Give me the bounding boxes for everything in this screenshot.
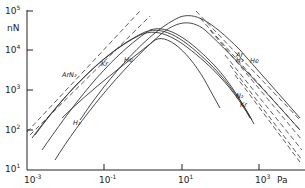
x-unit-label: Pa	[277, 175, 288, 185]
y-tick-labels: 105 nN 104 103 102 101	[5, 4, 20, 174]
x-tick-labels: 10-3 10-1 101 103 Pa	[24, 173, 288, 185]
y-tick-label: 101	[5, 162, 20, 174]
label-kr-right: Kr	[240, 101, 248, 109]
force-vs-pressure-chart: 105 nN 104 103 102 101 10-3 10-1 101 103…	[0, 0, 305, 188]
curves	[32, 16, 300, 160]
asymptote-line	[225, 55, 302, 150]
curve-labels: ArN₂ Kr He H₂ Ar N₂ Kr H₂ He	[61, 51, 259, 127]
label-ar-n2: ArN₂	[61, 71, 77, 79]
curve-he-upper	[80, 16, 300, 120]
label-n2-right: N₂	[236, 92, 244, 100]
y-tick-label: 104	[5, 43, 20, 55]
x-tick-label: 103	[255, 173, 270, 185]
curve-n2	[35, 30, 252, 135]
label-he-left: He	[124, 56, 133, 64]
high-pressure-asymptotes	[196, 11, 302, 162]
y-unit-label: nN	[7, 23, 19, 33]
x-tick-label: 101	[178, 173, 193, 185]
x-tick-label: 10-1	[99, 173, 117, 185]
x-tick-label: 10-3	[24, 173, 42, 185]
curve-ar	[32, 32, 250, 138]
y-tick-label: 105	[5, 4, 20, 16]
label-kr-left: Kr	[101, 60, 109, 68]
y-tick-label: 102	[5, 123, 20, 135]
label-h2-right: H₂	[236, 56, 244, 64]
curve-he-lower	[62, 39, 220, 118]
label-h2-left: H₂	[73, 119, 81, 127]
asymptote-line	[210, 30, 302, 140]
y-tick-label: 103	[5, 83, 20, 95]
label-he-right: He	[250, 57, 259, 65]
